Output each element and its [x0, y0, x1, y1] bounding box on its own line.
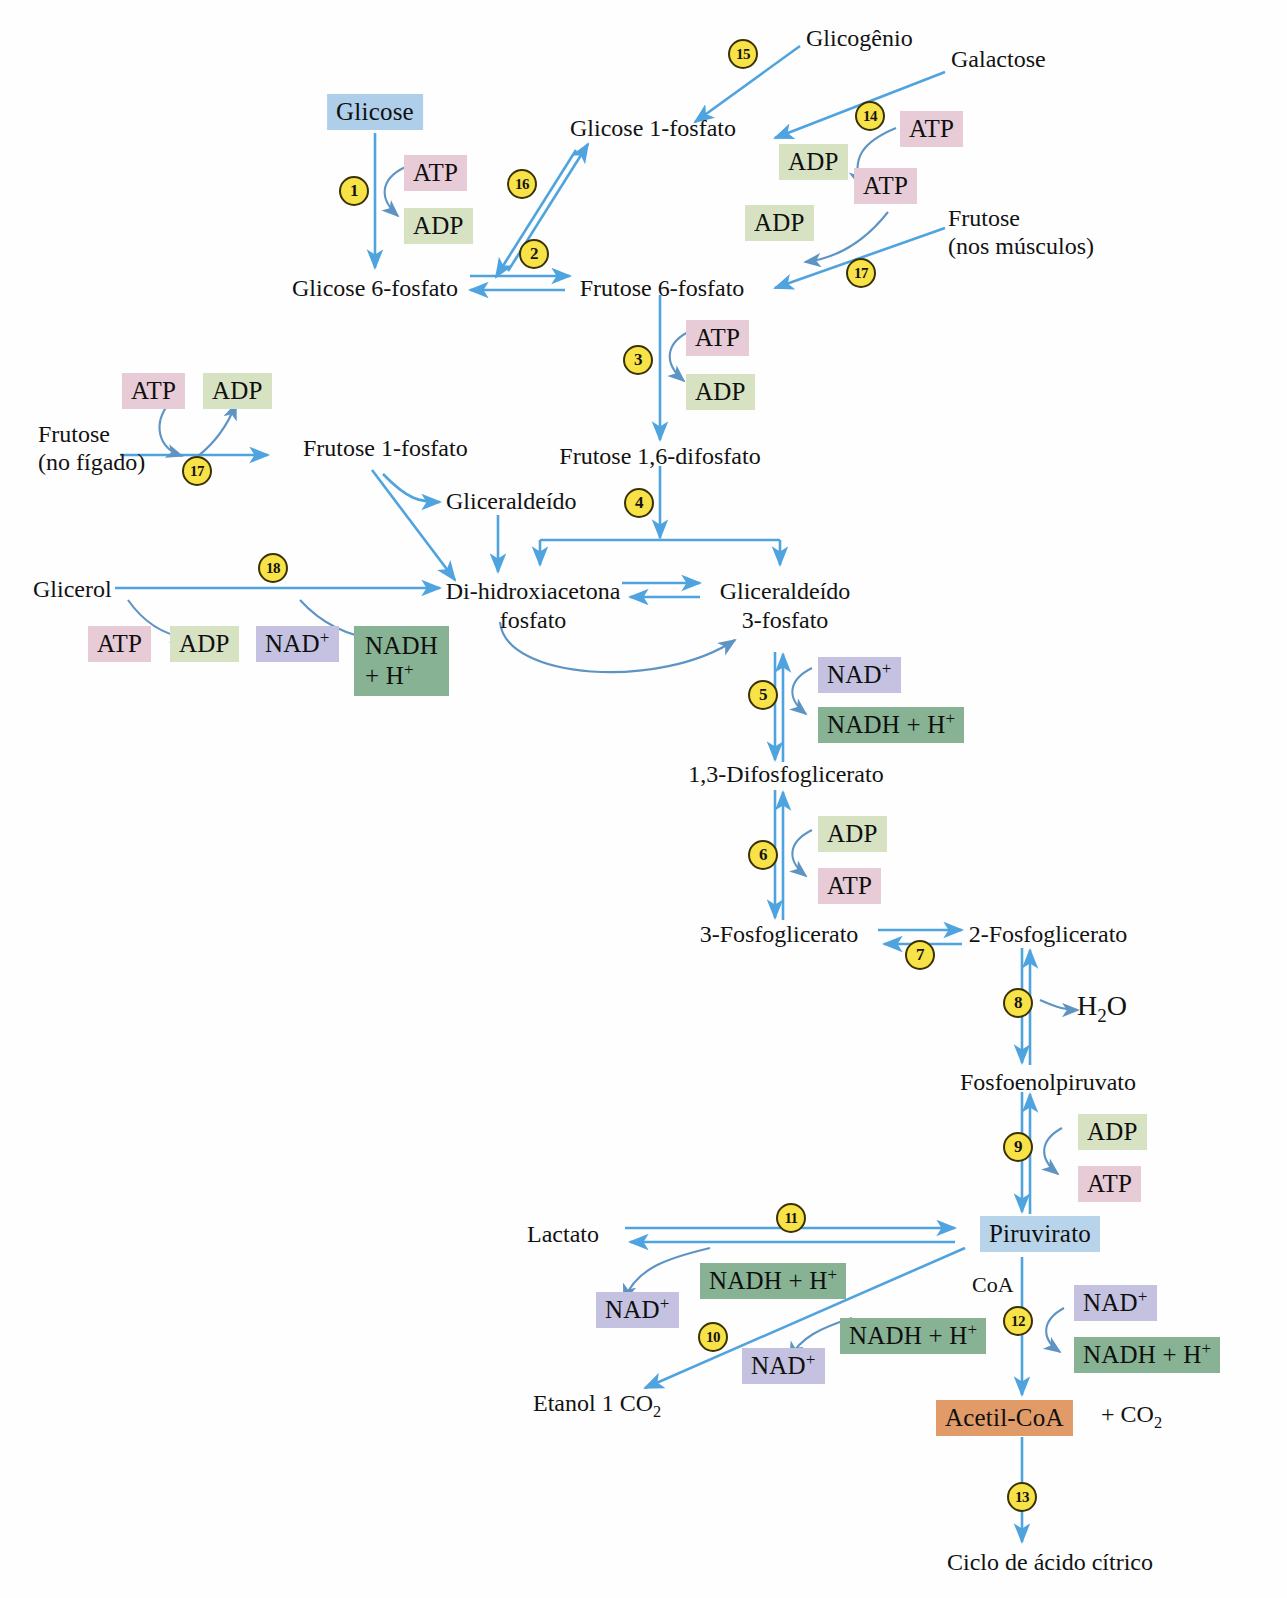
metabolite-glicerol[interactable]: Glicerol: [33, 575, 112, 603]
g3p-line1: Gliceraldeído: [720, 578, 851, 604]
step-circle-8[interactable]: 8: [1003, 988, 1033, 1018]
cofactor-atp-step14[interactable]: ATP: [900, 111, 963, 147]
frutose-figado-line1: Frutose: [38, 421, 110, 447]
step-circle-9[interactable]: 9: [1003, 1132, 1033, 1162]
metabolite-3-fosfoglicerato[interactable]: 3-Fosfoglicerato: [700, 920, 859, 948]
product-etanol-co2: Etanol 1 CO2: [533, 1390, 661, 1417]
cofactor-nadh-step18[interactable]: NADH + H+: [354, 626, 449, 696]
step-circle-3[interactable]: 3: [623, 345, 653, 375]
step-circle-1[interactable]: 1: [339, 176, 369, 206]
cofactor-nad-step10[interactable]: NAD+: [742, 1348, 825, 1384]
metabolite-glicose-6-fosfato[interactable]: Glicose 6-fosfato: [292, 274, 458, 302]
destination-ciclo-acido-citrico[interactable]: Ciclo de ácido cítrico: [947, 1548, 1153, 1576]
metabolite-galactose[interactable]: Galactose: [951, 45, 1046, 73]
cofactor-adp-step14[interactable]: ADP: [779, 144, 848, 180]
cofactor-atp-step17-musculos[interactable]: ATP: [854, 168, 917, 204]
cofactor-atp-step1[interactable]: ATP: [404, 155, 467, 191]
metabolite-frutose-16-difosfato[interactable]: Frutose 1,6-difosfato: [559, 442, 760, 470]
nadh-line2: + H+: [365, 662, 414, 689]
metabolite-frutose-6-fosfato[interactable]: Frutose 6-fosfato: [580, 274, 745, 302]
step-circle-14[interactable]: 14: [855, 101, 885, 131]
dhap-line2: fosfato: [500, 607, 567, 633]
cofactor-atp-step9[interactable]: ATP: [1078, 1166, 1141, 1202]
cofactor-atp-step3[interactable]: ATP: [686, 320, 749, 356]
cofactor-adp-step1[interactable]: ADP: [404, 208, 473, 244]
molecule-h2o: H2O: [1077, 990, 1127, 1022]
product-co2: + CO2: [1101, 1401, 1162, 1428]
metabolite-frutose-figado[interactable]: Frutose (no fígado): [38, 420, 145, 477]
metabolite-1-3-difosfoglicerato[interactable]: 1,3-Difosfoglicerato: [688, 760, 883, 788]
glycolysis-diagram: Glicose Glicose 6-fosfato Glicose 1-fosf…: [0, 0, 1287, 1598]
metabolite-glicogenio[interactable]: Glicogênio: [806, 24, 913, 52]
g3p-line2: 3-fosfato: [742, 607, 829, 633]
step-circle-10[interactable]: 10: [698, 1322, 728, 1352]
cofactor-nad-step11[interactable]: NAD+: [596, 1292, 679, 1328]
metabolite-frutose-musculos[interactable]: Frutose (nos músculos): [948, 204, 1094, 261]
step-circle-18[interactable]: 18: [258, 553, 288, 583]
metabolite-acetil-coa[interactable]: Acetil-CoA: [936, 1400, 1073, 1436]
step-circle-17-figado[interactable]: 17: [182, 456, 212, 486]
metabolite-dihidroxiacetona-fosfato[interactable]: Di-hidroxiacetona fosfato: [446, 577, 621, 635]
metabolite-frutose-1-fosfato[interactable]: Frutose 1-fosfato: [303, 434, 468, 462]
cofactor-adp-step9[interactable]: ADP: [1078, 1114, 1147, 1150]
frutose-musculos-line1: Frutose: [948, 205, 1020, 231]
cofactor-atp-step18[interactable]: ATP: [88, 626, 151, 662]
cofactor-adp-step17-figado[interactable]: ADP: [203, 373, 272, 409]
metabolite-2-fosfoglicerato[interactable]: 2-Fosfoglicerato: [969, 920, 1128, 948]
cofactor-coa-label: CoA: [972, 1272, 1014, 1298]
cofactor-adp-step17-musculos[interactable]: ADP: [745, 205, 814, 241]
cofactor-adp-step18[interactable]: ADP: [170, 626, 239, 662]
frutose-musculos-line2: (nos músculos): [948, 233, 1094, 259]
nadh-line1: NADH: [365, 632, 438, 659]
metabolite-lactato[interactable]: Lactato: [527, 1220, 599, 1248]
metabolite-gliceraldeido-3-fosfato[interactable]: Gliceraldeído 3-fosfato: [720, 577, 851, 635]
step-circle-2[interactable]: 2: [519, 239, 549, 269]
step-circle-4[interactable]: 4: [624, 488, 654, 518]
cofactor-atp-step17-figado[interactable]: ATP: [122, 373, 185, 409]
cofactor-nadh-step11[interactable]: NADH + H+: [700, 1263, 846, 1299]
dhap-line1: Di-hidroxiacetona: [446, 578, 621, 604]
cofactor-nadh-step12[interactable]: NADH + H+: [1074, 1337, 1220, 1373]
step-circle-15[interactable]: 15: [728, 39, 758, 69]
step-circle-16[interactable]: 16: [507, 169, 537, 199]
metabolite-glicose-1-fosfato[interactable]: Glicose 1-fosfato: [570, 114, 736, 142]
step-circle-12[interactable]: 12: [1003, 1306, 1033, 1336]
cofactor-nadh-step10[interactable]: NADH + H+: [840, 1318, 986, 1354]
metabolite-piruvirato[interactable]: Piruvirato: [980, 1216, 1100, 1252]
cofactor-atp-step6[interactable]: ATP: [818, 868, 881, 904]
cofactor-nadh-step5[interactable]: NADH + H+: [818, 707, 964, 743]
cofactor-nad-step5[interactable]: NAD+: [818, 657, 901, 693]
metabolite-fosfoenolpiruvato[interactable]: Fosfoenolpiruvato: [960, 1068, 1136, 1096]
step-circle-7[interactable]: 7: [905, 940, 935, 970]
step-circle-11[interactable]: 11: [776, 1203, 806, 1233]
step-circle-5[interactable]: 5: [748, 680, 778, 710]
cofactor-nad-step12[interactable]: NAD+: [1074, 1285, 1157, 1321]
step-circle-13[interactable]: 13: [1007, 1482, 1037, 1512]
frutose-figado-line2: (no fígado): [38, 449, 145, 475]
step-circle-17-musculos[interactable]: 17: [846, 258, 876, 288]
cofactor-nad-step18[interactable]: NAD+: [256, 626, 339, 662]
metabolite-gliceraldeido[interactable]: Gliceraldeído: [446, 487, 577, 515]
cofactor-adp-step3[interactable]: ADP: [686, 374, 755, 410]
metabolite-glicose[interactable]: Glicose: [327, 94, 423, 130]
step-circle-6[interactable]: 6: [748, 840, 778, 870]
cofactor-adp-step6[interactable]: ADP: [818, 816, 887, 852]
